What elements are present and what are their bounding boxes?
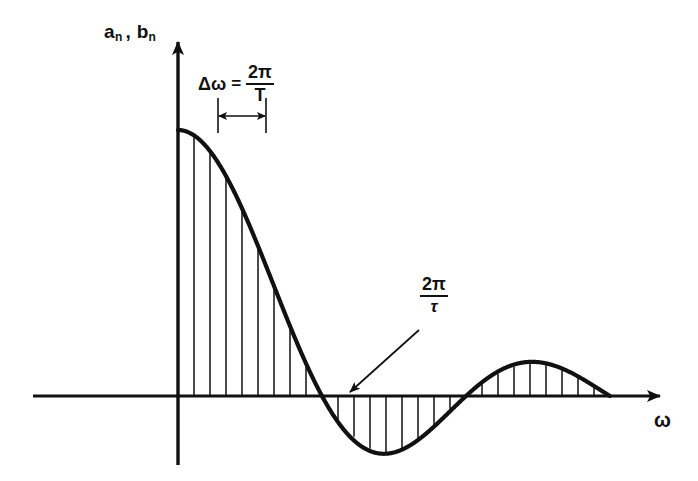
delta-omega-numerator: 2π: [246, 63, 274, 83]
delta-omega-fraction: 2π T: [246, 63, 274, 105]
first-zero-leader-arrow: [350, 330, 419, 392]
delta-omega-symbol: Δω: [198, 75, 226, 93]
first-zero-fraction: 2π τ: [420, 275, 448, 316]
x-axis-label: ω: [654, 410, 671, 430]
y-axis-label: an, bn: [104, 22, 156, 43]
delta-omega-annotation: Δω = 2π T: [198, 63, 274, 105]
sinc-envelope-curve: [178, 130, 610, 454]
y-axis-label-b-sub: n: [149, 30, 157, 44]
first-zero-denominator: τ: [428, 297, 439, 316]
y-axis-label-a-sub: n: [115, 30, 123, 44]
y-axis-label-a: a: [104, 21, 115, 42]
spectral-line-stems: [178, 130, 594, 453]
delta-omega-equals: =: [231, 75, 241, 92]
delta-omega-denominator: T: [252, 85, 267, 105]
y-axis-label-comma: ,: [126, 21, 132, 42]
first-zero-annotation: 2π τ: [420, 275, 448, 316]
first-zero-numerator: 2π: [420, 275, 448, 295]
y-axis-label-b: b: [137, 21, 149, 42]
spectrum-plot: [0, 0, 698, 481]
fourier-spectrum-figure: an, bn ω Δω = 2π T 2π τ: [0, 0, 698, 481]
